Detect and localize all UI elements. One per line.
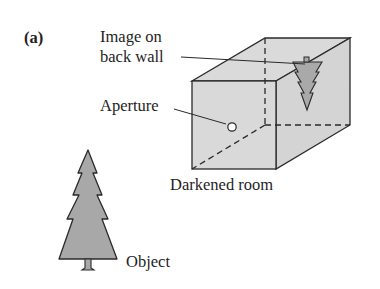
object-label: Object [126,253,170,271]
diagram-graphics [0,0,380,289]
aperture-hole [228,123,236,131]
panel-label: (a) [24,29,43,47]
image-label-line1: Image on [100,28,162,46]
room-label: Darkened room [170,176,273,194]
image-label-line2: back wall [100,48,164,66]
aperture-label: Aperture [100,97,159,115]
camera-obscura-figure: (a) Image on back wall Aperture Darkened… [0,0,380,289]
object-tree [59,150,117,270]
